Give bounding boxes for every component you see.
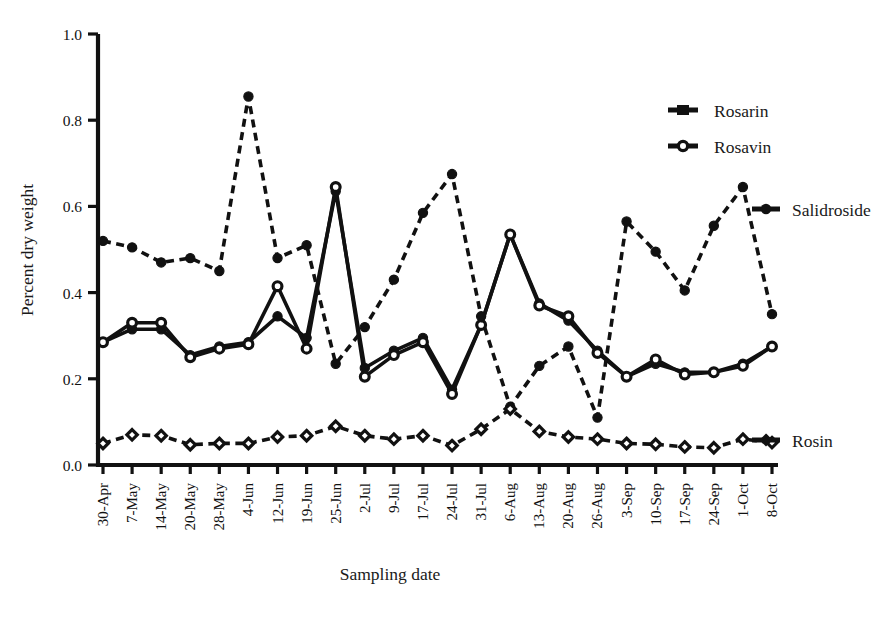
inline-label-rosin: Rosin	[752, 431, 833, 451]
data-point	[738, 182, 747, 191]
y-tick-label: 0.4	[63, 285, 83, 302]
data-point	[418, 430, 428, 440]
x-tick-label: 4-Jun	[240, 483, 256, 517]
data-point	[186, 353, 195, 362]
data-point	[593, 413, 602, 422]
data-point	[709, 443, 719, 453]
data-point	[273, 312, 282, 321]
data-point	[534, 426, 544, 436]
data-point	[506, 230, 515, 239]
data-point	[767, 310, 776, 319]
x-tick-label: 8-Oct	[764, 482, 780, 517]
data-point	[650, 439, 660, 449]
y-tick-label: 0.0	[63, 457, 83, 474]
y-axis-title: Percent dry weight	[17, 184, 37, 316]
inline-series-labels: SalidrosideRosin	[752, 200, 871, 451]
series-rosavin	[99, 183, 777, 399]
data-point	[98, 236, 107, 245]
legend-item-rosarin[interactable]: Rosarin	[668, 101, 769, 121]
data-point	[331, 359, 340, 368]
data-point	[215, 344, 224, 353]
x-axis-title: Sampling date	[340, 564, 441, 584]
data-point	[273, 282, 282, 291]
x-tick-label: 2-Jul	[357, 483, 373, 513]
data-point	[535, 301, 544, 310]
x-tick-label: 17-Sep	[677, 483, 693, 526]
data-point	[331, 183, 340, 192]
data-point	[477, 312, 486, 321]
data-point	[622, 217, 631, 226]
inline-label-text: Rosin	[792, 431, 833, 451]
y-axis-tick-labels: 0.00.20.40.60.81.0	[63, 26, 83, 474]
data-point	[185, 440, 195, 450]
data-point	[622, 372, 631, 381]
data-point	[127, 243, 136, 252]
data-point	[419, 338, 428, 347]
data-point	[680, 370, 689, 379]
x-tick-label: 24-Jul	[444, 483, 460, 521]
data-point	[360, 372, 369, 381]
data-point	[360, 322, 369, 331]
figure-container: 0.00.20.40.60.81.0 30-Apr7-May14-May20-M…	[0, 0, 881, 617]
data-point	[99, 338, 108, 347]
inline-circle-icon	[761, 204, 771, 214]
data-point	[593, 349, 602, 358]
data-point	[272, 432, 282, 442]
data-point	[651, 247, 660, 256]
data-point	[592, 434, 602, 444]
data-point	[709, 368, 718, 377]
data-point	[215, 266, 224, 275]
data-point	[157, 258, 166, 267]
x-tick-label: 10-Sep	[648, 483, 664, 526]
x-axis-tick-labels: 30-Apr7-May14-May20-May28-May4-Jun12-Jun…	[95, 482, 780, 530]
data-point	[418, 208, 427, 217]
x-tick-label: 3-Sep	[619, 483, 635, 518]
data-point	[127, 430, 137, 440]
x-tick-label: 30-Apr	[95, 483, 111, 526]
data-point	[128, 318, 137, 327]
data-point	[738, 434, 748, 444]
y-tick-label: 0.2	[63, 371, 82, 388]
data-point	[244, 340, 253, 349]
inline-label-salidroside: Salidroside	[752, 200, 871, 220]
x-tick-label: 19-Jun	[299, 483, 315, 524]
legend-filled-square-icon	[677, 105, 689, 115]
x-tick-label: 24-Sep	[706, 483, 722, 526]
data-point	[330, 421, 340, 431]
data-point	[651, 355, 660, 364]
data-point	[476, 424, 486, 434]
legend-item-rosavin[interactable]: Rosavin	[668, 137, 772, 157]
data-point	[301, 430, 311, 440]
chart-legend: RosarinRosavin	[668, 101, 772, 157]
data-point	[739, 361, 748, 370]
legend-label: Rosavin	[714, 137, 772, 157]
data-point	[563, 432, 573, 442]
data-point	[186, 254, 195, 263]
y-tick-label: 0.8	[63, 112, 83, 129]
series-rosin	[98, 404, 777, 453]
data-point	[621, 438, 631, 448]
legend-label: Rosarin	[714, 101, 769, 121]
data-point	[447, 169, 456, 178]
data-point	[564, 312, 573, 321]
data-point	[768, 342, 777, 351]
x-tick-label: 20-May	[182, 483, 198, 531]
data-point	[564, 342, 573, 351]
data-point	[680, 286, 689, 295]
x-tick-label: 9-Jul	[386, 483, 402, 513]
data-point	[680, 442, 690, 452]
data-point	[302, 241, 311, 250]
data-point	[243, 438, 253, 448]
data-point	[273, 254, 282, 263]
series-rosarin	[98, 187, 776, 394]
data-point	[157, 318, 166, 327]
x-tick-label: 6-Aug	[502, 483, 518, 522]
x-tick-label: 7-May	[124, 483, 140, 523]
x-tick-label: 12-Jun	[270, 483, 286, 524]
data-point	[709, 221, 718, 230]
x-tick-label: 14-May	[153, 483, 169, 531]
series-salidroside	[98, 92, 776, 422]
inline-label-text: Salidroside	[792, 200, 871, 220]
line-chart: 0.00.20.40.60.81.0 30-Apr7-May14-May20-M…	[0, 0, 881, 617]
data-point	[389, 434, 399, 444]
